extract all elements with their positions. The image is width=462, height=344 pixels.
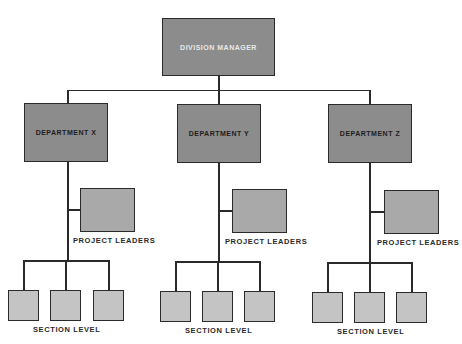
department-x-section-1-connector bbox=[23, 260, 25, 290]
connector-to-department-y bbox=[218, 90, 220, 104]
department-y-section-1-connector bbox=[175, 261, 177, 291]
department-y-spine bbox=[218, 163, 220, 261]
department-x-box: DEPARTMENT X bbox=[24, 103, 108, 162]
department-x-spine bbox=[67, 162, 69, 260]
division-manager-label: DIVISION MANAGER bbox=[180, 44, 257, 51]
department-y-section-3-box bbox=[244, 291, 275, 322]
department-y-section-1-box bbox=[160, 291, 191, 322]
connector-to-department-x bbox=[67, 90, 69, 103]
connector-manager-down bbox=[218, 75, 220, 90]
division-manager-box: DIVISION MANAGER bbox=[162, 18, 275, 76]
department-y-section-3-connector bbox=[259, 261, 261, 291]
department-z-section-1-box bbox=[312, 292, 343, 323]
department-x-project-branch bbox=[67, 209, 80, 211]
department-z-section-1-connector bbox=[327, 262, 329, 292]
department-z-project-leaders-label: PROJECT LEADERS bbox=[377, 238, 459, 247]
department-x-project-leaders-label: PROJECT LEADERS bbox=[73, 236, 155, 245]
department-x-section-level-label: SECTION LEVEL bbox=[33, 325, 100, 334]
connector-to-department-z bbox=[369, 90, 371, 104]
department-z-section-2-connector bbox=[369, 262, 371, 292]
department-x-label: DEPARTMENT X bbox=[36, 129, 97, 136]
department-z-section-3-box bbox=[396, 292, 427, 323]
department-y-label: DEPARTMENT Y bbox=[189, 130, 250, 137]
department-z-project-leaders-box bbox=[384, 190, 439, 234]
department-y-project-leaders-label: PROJECT LEADERS bbox=[225, 237, 307, 246]
department-z-box: DEPARTMENT Z bbox=[328, 104, 412, 163]
department-y-section-level-label: SECTION LEVEL bbox=[185, 326, 252, 335]
department-y-section-2-connector bbox=[217, 261, 219, 291]
department-z-label: DEPARTMENT Z bbox=[340, 130, 400, 137]
department-x-section-2-connector bbox=[65, 260, 67, 290]
department-y-box: DEPARTMENT Y bbox=[177, 104, 261, 163]
department-y-project-leaders-box bbox=[232, 189, 287, 233]
department-x-section-2-box bbox=[50, 290, 81, 321]
department-z-project-branch bbox=[369, 211, 384, 213]
department-z-section-2-box bbox=[354, 292, 385, 323]
department-z-spine bbox=[369, 163, 371, 262]
department-x-section-1-box bbox=[8, 290, 39, 321]
department-x-section-3-box bbox=[93, 290, 124, 321]
department-x-project-leaders-box bbox=[80, 188, 135, 232]
department-y-section-2-box bbox=[202, 291, 233, 322]
department-z-section-3-connector bbox=[411, 262, 413, 292]
department-y-project-branch bbox=[218, 210, 232, 212]
department-z-section-level-label: SECTION LEVEL bbox=[337, 327, 404, 336]
department-x-section-3-connector bbox=[108, 260, 110, 290]
